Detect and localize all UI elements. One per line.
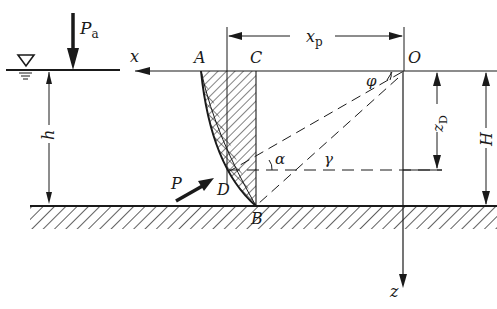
angle-gamma-label: γ bbox=[324, 150, 333, 168]
x-axis-label: x bbox=[130, 47, 139, 66]
diagram-canvas: Pa x h xp bbox=[0, 0, 497, 309]
xp-label: xp bbox=[306, 27, 323, 49]
origin-label: O bbox=[408, 48, 421, 67]
force-p-label: P bbox=[170, 174, 182, 193]
angle-phi-label: φ bbox=[366, 72, 377, 90]
atm-pressure-arrow bbox=[67, 13, 79, 70]
atm-pressure-label: Pa bbox=[79, 18, 99, 41]
water-level-symbol-icon bbox=[18, 55, 34, 79]
z-axis bbox=[399, 71, 407, 288]
angle-alpha-label: α bbox=[275, 150, 285, 168]
dashed-construction-lines bbox=[228, 72, 442, 204]
point-a-label: A bbox=[192, 48, 206, 67]
point-c-label: C bbox=[250, 48, 262, 67]
x-axis bbox=[135, 67, 497, 75]
point-b-label: B bbox=[250, 209, 263, 228]
z-axis-label: z bbox=[389, 282, 399, 301]
ground bbox=[30, 206, 497, 229]
point-d-label: D bbox=[216, 180, 230, 199]
depth-h-label: h bbox=[39, 130, 58, 140]
depth-H-label: H bbox=[477, 131, 496, 147]
